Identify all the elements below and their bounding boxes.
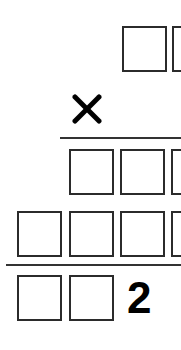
partial2-box-3[interactable] (120, 211, 165, 257)
partial2-box-4[interactable] (171, 211, 181, 257)
partial2-box-1[interactable] (17, 211, 62, 257)
multiplicand-box-1[interactable] (122, 26, 167, 72)
multiplicand-box-2[interactable] (172, 26, 181, 72)
result-box-1[interactable] (17, 275, 62, 321)
partial2-box-2[interactable] (69, 211, 114, 257)
partial1-box-3[interactable] (171, 149, 181, 195)
multiply-icon (72, 94, 102, 124)
partial1-box-1[interactable] (69, 149, 114, 195)
divider-line-2 (6, 264, 181, 266)
divider-line-1 (60, 137, 181, 139)
result-box-2[interactable] (69, 275, 114, 321)
partial1-box-2[interactable] (120, 149, 165, 195)
given-digit: 2 (127, 276, 151, 320)
